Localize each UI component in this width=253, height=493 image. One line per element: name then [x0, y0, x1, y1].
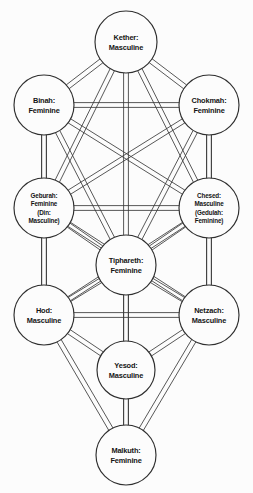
sephirah-label-netzach-line2: Masculine: [192, 316, 226, 325]
connection-geburah-chesed: [74, 206, 179, 211]
connection-binah-geburah: [42, 135, 47, 178]
connection-tiphareth-hod: [68, 279, 101, 302]
sephirah-label-chesed-line1: Chesed:: [197, 192, 221, 199]
sephirah-label-netzach-line1: Netzach:: [194, 306, 224, 315]
sephirah-label-tiphareth-line2: Feminine: [110, 266, 141, 275]
sephirah-label-hod-line1: Hod:: [36, 306, 52, 315]
connection-hod-netzach: [74, 313, 179, 318]
connection-stroke: [68, 334, 101, 356]
connection-chesed-netzach: [207, 238, 212, 285]
sephirah-label-yesod-line1: Yesod:: [114, 361, 137, 370]
connection-stroke: [149, 330, 183, 353]
sephirah-chesed[interactable]: Chesed:Masculine(Gedulah:Feminine): [179, 178, 239, 238]
sephirah-label-hod-line2: Masculine: [27, 316, 61, 325]
sephirah-label-geburah-line4: Masculine): [28, 217, 59, 225]
sephirah-label-tiphareth-line1: Tiphareth:: [109, 256, 144, 265]
tree-of-life-canvas: Kether:MasculineBinah:FeminineChokmah:Fe…: [0, 0, 253, 493]
sephirah-binah[interactable]: Binah:Feminine: [14, 75, 74, 135]
connection-binah-chokmah: [74, 103, 179, 108]
sephirah-label-chesed-line4: Feminine): [195, 217, 223, 225]
sephirah-tiphareth[interactable]: Tiphareth:Feminine: [96, 235, 156, 295]
sephirah-kether[interactable]: Kether:Masculine: [95, 11, 157, 73]
sephirah-geburah[interactable]: Geburah:Feminine(Din:Masculine): [14, 178, 74, 238]
sephirah-label-kether-line2: Masculine: [109, 43, 143, 52]
sephirah-label-chesed-line2: Masculine: [194, 200, 224, 207]
connection-yesod-malkuth: [124, 399, 129, 425]
sephirah-label-binah-line2: Feminine: [28, 106, 59, 115]
sephirah-netzach[interactable]: Netzach:Masculine: [179, 285, 239, 345]
connection-stroke: [70, 330, 103, 352]
connection-chokmah-chesed: [207, 135, 212, 178]
sephirah-label-kether-line1: Kether:: [114, 33, 139, 42]
sephirah-label-malkuth-line1: Malkuth:: [111, 446, 140, 455]
sephirah-label-yesod-line2: Masculine: [109, 371, 143, 380]
connection-netzach-yesod: [149, 330, 186, 357]
connection-tiphareth-netzach: [150, 278, 184, 301]
connection-stroke: [151, 334, 185, 357]
sephirah-chokmah[interactable]: Chokmah:Feminine: [179, 75, 239, 135]
connection-stroke: [153, 278, 185, 297]
sephirot-layer: Kether:MasculineBinah:FeminineChokmah:Fe…: [14, 11, 239, 485]
connection-geburah-hod: [42, 238, 47, 285]
sephirah-label-chokmah-line1: Chokmah:: [192, 96, 227, 105]
connection-stroke: [66, 59, 100, 85]
connection-stroke: [69, 63, 103, 89]
sephirah-label-geburah-line2: Feminine: [31, 200, 58, 207]
connection-stroke: [149, 223, 183, 246]
connection-stroke: [70, 223, 103, 246]
sephirah-label-geburah-line1: Geburah:: [31, 192, 58, 199]
sephirah-label-chokmah-line2: Feminine: [193, 106, 224, 115]
connection-tiphareth-yesod: [124, 295, 129, 341]
connection-stroke: [149, 63, 184, 89]
connection-stroke: [71, 123, 185, 194]
sephirah-label-binah-line1: Binah:: [33, 96, 55, 105]
tree-of-life-diagram: Kether:MasculineBinah:FeminineChokmah:Fe…: [0, 0, 253, 493]
sephirah-hod[interactable]: Hod:Masculine: [14, 285, 74, 345]
sephirah-label-chesed-line3: (Gedulah:: [195, 209, 223, 217]
sephirah-malkuth[interactable]: Malkuth:Feminine: [96, 425, 156, 485]
connection-stroke: [152, 59, 187, 85]
sephirah-label-malkuth-line2: Feminine: [110, 456, 141, 465]
connection-stroke: [68, 279, 99, 298]
connection-hod-yesod: [68, 330, 104, 356]
connection-kether-chokmah: [149, 59, 186, 89]
sephirah-yesod[interactable]: Yesod:Masculine: [97, 341, 155, 399]
connection-kether-binah: [66, 59, 103, 89]
sephirah-label-geburah-line3: (Din:: [37, 209, 51, 217]
